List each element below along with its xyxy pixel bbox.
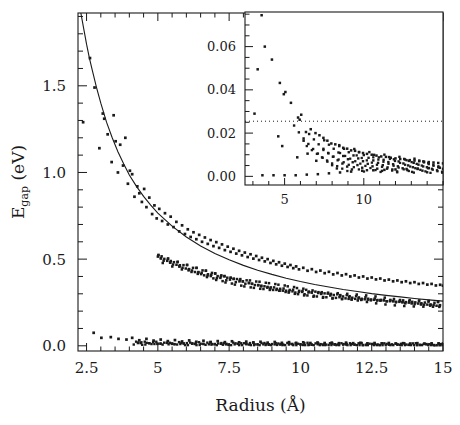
data-point <box>372 159 374 161</box>
data-point <box>366 277 369 280</box>
data-point <box>325 296 328 299</box>
data-point <box>308 133 310 135</box>
data-point <box>255 280 257 283</box>
data-point <box>367 163 369 165</box>
data-point <box>169 215 172 218</box>
data-point <box>302 287 305 290</box>
data-point <box>290 102 293 105</box>
data-point <box>281 264 284 267</box>
data-point <box>338 144 340 146</box>
data-point <box>242 280 245 283</box>
data-point <box>293 286 296 289</box>
data-point <box>344 297 347 300</box>
data-point <box>442 162 445 165</box>
data-point <box>362 160 364 162</box>
data-point <box>289 264 292 267</box>
data-point <box>417 283 420 286</box>
data-point <box>413 344 415 346</box>
data-point <box>163 258 166 261</box>
main-y-tick-label: 1.5 <box>42 77 66 95</box>
data-point <box>162 262 165 265</box>
data-point <box>174 339 177 342</box>
data-point <box>175 221 178 224</box>
data-point <box>225 343 227 345</box>
data-point <box>318 134 321 137</box>
data-point <box>232 278 235 281</box>
data-point <box>389 344 391 346</box>
data-point <box>355 295 358 298</box>
data-point <box>297 116 300 119</box>
data-point <box>381 166 383 168</box>
data-point <box>136 185 139 188</box>
data-point <box>396 344 398 346</box>
data-point <box>371 165 373 167</box>
data-point <box>300 113 303 116</box>
data-point <box>293 124 295 126</box>
data-point <box>249 286 252 289</box>
data-point <box>351 168 353 170</box>
data-point <box>394 160 396 162</box>
data-point <box>367 298 370 301</box>
data-point <box>186 228 189 231</box>
data-point <box>302 139 305 142</box>
data-point <box>326 159 328 161</box>
data-point <box>214 272 217 275</box>
data-point <box>166 260 169 263</box>
data-point <box>153 343 155 345</box>
data-point <box>373 154 375 156</box>
data-point <box>319 269 322 272</box>
data-point <box>145 338 148 341</box>
inset-x-tick-label: 5 <box>280 192 288 207</box>
y-axis-label-gap-subscript: gap <box>18 186 31 207</box>
data-point <box>254 284 257 287</box>
data-point <box>426 166 428 168</box>
data-point <box>409 165 411 167</box>
data-point <box>414 167 416 169</box>
data-point <box>407 164 409 166</box>
data-point <box>195 342 197 344</box>
data-point <box>408 301 411 304</box>
data-point <box>235 252 238 255</box>
data-point <box>184 233 187 236</box>
data-point <box>323 272 326 275</box>
data-point <box>211 272 214 275</box>
data-point <box>302 266 305 269</box>
data-point <box>156 343 158 345</box>
data-point <box>342 295 345 298</box>
data-point <box>348 151 350 153</box>
data-point <box>311 149 313 151</box>
data-point <box>358 168 360 170</box>
data-point <box>335 344 337 346</box>
data-point <box>433 302 436 305</box>
data-point <box>435 284 438 287</box>
data-point <box>272 289 275 292</box>
data-point <box>439 344 441 346</box>
data-point <box>368 151 370 153</box>
data-point <box>202 339 205 342</box>
data-point <box>394 304 397 307</box>
data-point <box>392 344 394 346</box>
data-point <box>266 258 269 261</box>
data-point <box>257 284 260 287</box>
data-point <box>245 279 248 282</box>
data-point <box>370 276 373 279</box>
data-point <box>234 283 237 286</box>
data-point <box>399 162 401 164</box>
data-point <box>151 213 154 216</box>
y-axis-label-unit: (eV) <box>8 145 28 186</box>
data-point <box>333 294 336 297</box>
data-point <box>323 292 326 295</box>
data-point <box>302 137 304 139</box>
data-point <box>276 344 278 346</box>
data-point <box>243 342 245 344</box>
data-point <box>398 301 401 304</box>
data-point <box>238 344 240 346</box>
data-point <box>269 286 272 289</box>
data-point <box>186 264 189 267</box>
data-point <box>231 282 234 285</box>
data-point <box>379 344 381 346</box>
data-point <box>261 174 264 177</box>
data-point <box>221 280 224 283</box>
data-point <box>385 300 388 303</box>
data-point <box>297 293 300 296</box>
